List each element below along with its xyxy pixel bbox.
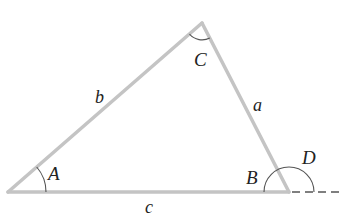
angle-a-arc bbox=[37, 167, 46, 192]
vertex-label-c: C bbox=[194, 50, 207, 69]
side-label-c: c bbox=[145, 198, 153, 216]
exterior-angle-label-d: D bbox=[302, 148, 316, 167]
side-label-b: b bbox=[95, 88, 104, 106]
triangle-diagram bbox=[0, 0, 341, 220]
vertex-label-a: A bbox=[48, 164, 60, 183]
side-label-a: a bbox=[253, 96, 262, 114]
side-b bbox=[8, 23, 202, 192]
vertex-label-b: B bbox=[246, 168, 258, 187]
